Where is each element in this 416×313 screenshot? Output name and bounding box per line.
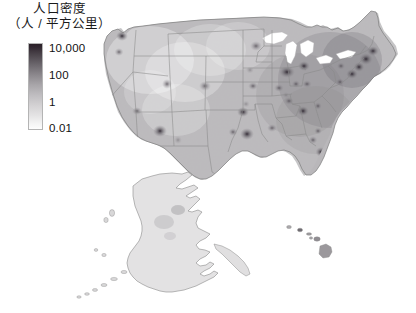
island-kauai bbox=[287, 225, 292, 228]
colorbar-tick-1: 1 bbox=[49, 96, 56, 108]
colorbar-group: 10,000 100 1 0.01 bbox=[28, 43, 114, 135]
alaska-panhandle bbox=[214, 244, 250, 276]
legend: 人口密度 （人 / 平方公里） 10,000 100 1 0.01 bbox=[6, 2, 114, 136]
island-oahu bbox=[297, 228, 302, 232]
legend-title: 人口密度 bbox=[6, 2, 114, 17]
alaska-inset bbox=[77, 172, 250, 298]
colorbar-tick-100: 100 bbox=[49, 69, 69, 81]
island-molokai bbox=[306, 233, 311, 236]
island-hawaii bbox=[319, 244, 332, 258]
conus-layer bbox=[100, 10, 402, 190]
hawaii-inset bbox=[287, 225, 332, 258]
population-density-figure: 人口密度 （人 / 平方公里） 10,000 100 1 0.01 bbox=[0, 0, 416, 313]
alaska-landmass bbox=[127, 172, 218, 292]
colorbar-tick-10000: 10,000 bbox=[49, 42, 85, 54]
colorbar-tick-0.01: 0.01 bbox=[49, 122, 72, 134]
legend-subtitle: （人 / 平方公里） bbox=[6, 17, 114, 32]
island-maui bbox=[314, 237, 320, 241]
island-lanai bbox=[309, 237, 312, 239]
colorbar-gradient bbox=[28, 43, 43, 130]
aleutian-islands bbox=[77, 210, 127, 299]
